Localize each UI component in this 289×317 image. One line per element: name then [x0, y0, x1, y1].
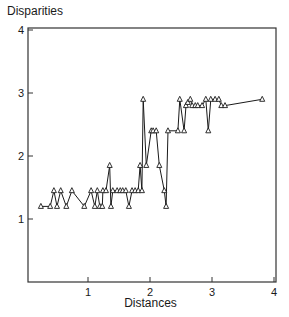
triangle-marker-icon: [51, 188, 56, 193]
y-tick-label: 1: [18, 213, 24, 225]
triangle-marker-icon: [103, 188, 108, 193]
triangle-marker-icon: [139, 188, 144, 193]
y-tick-label: 3: [18, 87, 24, 99]
triangle-marker-icon: [223, 103, 228, 108]
triangle-marker-icon: [260, 96, 265, 101]
triangle-marker-icon: [89, 188, 94, 193]
triangle-marker-icon: [108, 203, 113, 208]
triangle-marker-icon: [164, 203, 169, 208]
triangle-marker-icon: [144, 162, 149, 167]
triangle-marker-icon: [123, 188, 128, 193]
triangle-marker-icon: [162, 188, 167, 193]
triangle-marker-icon: [48, 203, 53, 208]
triangle-marker-icon: [58, 188, 63, 193]
series-line: [41, 99, 262, 206]
plot-frame: [28, 28, 276, 282]
triangle-marker-icon: [55, 203, 60, 208]
y-tick-label: 4: [18, 24, 24, 36]
triangle-marker-icon: [92, 203, 97, 208]
triangle-marker-icon: [69, 188, 74, 193]
line-chart: 12341234: [0, 0, 289, 317]
triangle-marker-icon: [182, 128, 187, 133]
triangle-marker-icon: [188, 96, 193, 101]
triangle-marker-icon: [203, 96, 208, 101]
triangle-marker-icon: [177, 96, 182, 101]
triangle-marker-icon: [175, 128, 180, 133]
x-axis-title: Distances: [0, 296, 289, 310]
triangle-marker-icon: [216, 96, 221, 101]
triangle-marker-icon: [126, 203, 131, 208]
triangle-marker-icon: [141, 96, 146, 101]
y-tick-label: 2: [18, 150, 24, 162]
plot-border: [28, 28, 276, 282]
triangle-marker-icon: [206, 128, 211, 133]
triangle-marker-icon: [165, 128, 170, 133]
triangle-marker-icon: [157, 162, 162, 167]
triangle-marker-icon: [38, 203, 43, 208]
data-series: [38, 96, 264, 208]
triangle-marker-icon: [95, 188, 100, 193]
triangle-marker-icon: [154, 128, 159, 133]
triangle-marker-icon: [64, 203, 69, 208]
axis-ticks: 12341234: [18, 24, 277, 298]
triangle-marker-icon: [107, 162, 112, 167]
